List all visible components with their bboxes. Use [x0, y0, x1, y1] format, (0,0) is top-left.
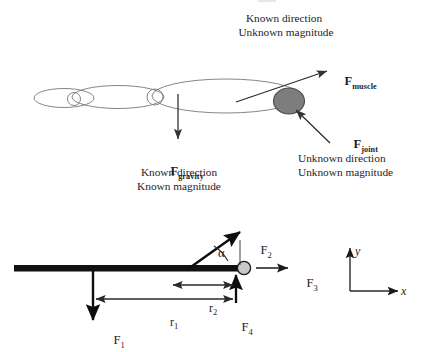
- force-1-label: F1: [101, 318, 125, 352]
- distance-2-subscript: 2: [213, 308, 217, 318]
- limb-joint-small: [68, 93, 81, 106]
- distance-2-label: r2: [197, 287, 217, 332]
- force-4-label: F4: [229, 305, 253, 351]
- gravity-note-line2: Known magnitude: [104, 180, 254, 193]
- limb-segment-middle: [72, 86, 164, 109]
- joint-force-symbol: F: [354, 137, 362, 151]
- muscle-force-symbol: F: [345, 74, 353, 88]
- force-2-arrow: [188, 232, 240, 269]
- muscle-force-label: Fmuscle: [332, 59, 377, 106]
- axis-y-label: y: [355, 244, 360, 258]
- distance-1-subscript: 1: [174, 322, 178, 332]
- joint-force-pointer: [296, 110, 330, 143]
- gravity-note-line1: Known direction: [104, 166, 254, 179]
- joint-marker: [274, 88, 305, 114]
- rigid-bar: [14, 265, 241, 272]
- force-3-subscript: 3: [313, 282, 317, 292]
- force-3-label: F3: [294, 261, 318, 307]
- distance-1-label: r1: [158, 301, 178, 346]
- angle-label: α: [218, 246, 225, 261]
- force-2-label: F2: [248, 228, 272, 274]
- muscle-force-subscript: muscle: [352, 81, 377, 90]
- force-1-subscript: 1: [120, 339, 124, 349]
- joint-note-line1: Unknown direction: [298, 152, 437, 165]
- force-4-subscript: 4: [248, 326, 252, 336]
- muscle-note-line1: Known direction: [209, 12, 359, 25]
- joint-note-line2: Unknown magnitude: [298, 166, 437, 179]
- force-2-subscript: 2: [267, 249, 271, 259]
- muscle-note-line2: Unknown magnitude: [206, 26, 366, 39]
- axis-x-label: x: [401, 284, 406, 298]
